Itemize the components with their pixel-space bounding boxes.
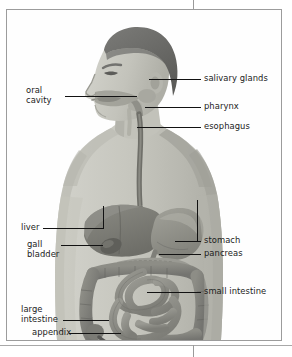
leader-liver-tick (103, 206, 104, 229)
leader-appendix (69, 333, 121, 334)
label-oral-cavity: oral cavity (26, 86, 52, 105)
label-liver: liver (21, 223, 39, 233)
page-edge-line-top (193, 0, 194, 9)
figure-frame: oral cavity salivary glands pharynx esop… (6, 9, 282, 341)
page-edge-line-bottom-vertical (193, 345, 194, 357)
leader-liver (43, 228, 103, 229)
label-pancreas: pancreas (204, 249, 243, 259)
label-small-intestine: small intestine (204, 287, 266, 297)
leader-pancreas (159, 254, 201, 255)
label-salivary-glands: salivary glands (204, 74, 268, 84)
leader-pharynx (145, 107, 201, 108)
label-gall-bladder: gall bladder (27, 240, 59, 259)
label-pharynx: pharynx (204, 102, 239, 112)
label-esophagus: esophagus (204, 122, 250, 132)
leader-large-intestine (63, 320, 109, 321)
leader-gall-bladder (61, 245, 103, 246)
label-stomach: stomach (204, 236, 240, 246)
leader-small-intestine (147, 292, 201, 293)
leader-oral-cavity (65, 96, 137, 97)
page-edge-line-bottom-horizontal (0, 345, 292, 346)
leader-esophagus (137, 127, 201, 128)
label-large-intestine: large intestine (21, 305, 58, 324)
leader-stomach-tick (197, 200, 198, 242)
leader-salivary-glands (149, 79, 201, 80)
label-appendix: appendix (32, 328, 71, 338)
page-canvas: oral cavity salivary glands pharynx esop… (0, 0, 292, 357)
